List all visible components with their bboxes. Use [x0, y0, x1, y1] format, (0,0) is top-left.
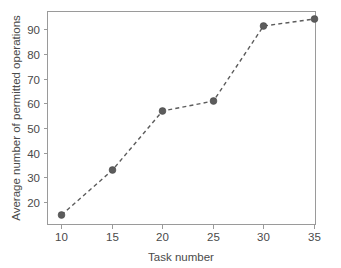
data-point	[210, 98, 217, 105]
y-tick-label: 20	[27, 197, 40, 209]
data-point	[260, 23, 267, 30]
y-tick-label: 70	[27, 74, 40, 86]
data-point	[109, 167, 116, 174]
y-tick-label: 30	[27, 172, 40, 184]
data-point	[58, 212, 65, 219]
y-tick-label: 80	[27, 49, 40, 61]
y-tick-label: 60	[27, 98, 40, 110]
data-point	[159, 108, 166, 115]
line-chart: 90 80 70 60 50 40 30 20 10 15 20 25 30 3…	[0, 0, 341, 268]
x-tick-label: 25	[207, 231, 220, 243]
x-tick-label: 10	[55, 231, 68, 243]
y-tick-label: 40	[27, 148, 40, 160]
y-tick-label: 50	[27, 123, 40, 135]
chart-figure: 90 80 70 60 50 40 30 20 10 15 20 25 30 3…	[0, 0, 341, 268]
y-tick-label: 90	[27, 24, 40, 36]
x-axis-title: Task number	[148, 251, 214, 263]
y-axis-title: Average number of permitted operations	[10, 15, 22, 221]
x-tick-label: 30	[257, 231, 270, 243]
x-tick-label: 15	[106, 231, 119, 243]
data-point	[311, 16, 318, 23]
x-tick-label: 20	[156, 231, 169, 243]
x-tick-label: 35	[308, 231, 321, 243]
chart-background	[0, 0, 341, 268]
